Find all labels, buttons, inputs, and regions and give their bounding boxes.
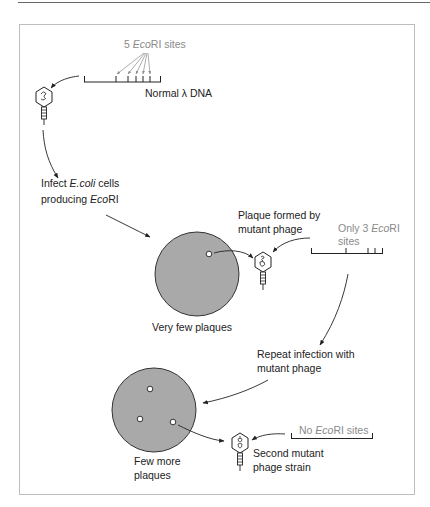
plaque-icon [206, 251, 212, 257]
arrow-icon [203, 380, 268, 403]
plaque-icon [137, 416, 143, 422]
arrow-icon [43, 130, 58, 178]
plaque-formed-label-line1: Plaque formed by [238, 209, 321, 221]
arrow-icon [106, 215, 150, 237]
petri-plate-icon [155, 232, 239, 316]
repeat-infection-label-line2: mutant phage [257, 362, 321, 374]
arrow-icon [273, 238, 310, 252]
infect-label-line1: Infect E.coli cells [41, 177, 119, 189]
petri-plate-icon [112, 368, 196, 452]
plaque-icon [147, 386, 153, 392]
plaque-formed-label-line2: mutant phage [238, 223, 302, 235]
only-three-sites-label-line1: Only 3 EcoRI [338, 222, 400, 234]
no-sites-label: No EcoRI sites [299, 424, 368, 436]
site-pointer-arrows [117, 53, 150, 74]
only-three-sites-label-line2: sites [338, 235, 360, 247]
arrow-icon [320, 274, 348, 345]
arrow-icon [252, 434, 285, 440]
plaque-icon [170, 419, 176, 425]
few-more-plaques-label-line2: plaques [134, 469, 171, 481]
five-sites-label: 5 EcoRI sites [124, 38, 186, 50]
few-more-plaques-label-line1: Few more [134, 455, 181, 467]
second-mutant-label-line1: Second mutant [253, 447, 324, 459]
repeat-infection-label-line1: Repeat infection with [257, 348, 355, 360]
phage-icon [255, 252, 271, 290]
phage-icon [36, 87, 52, 125]
infect-label-line2: producing EcoRI [41, 193, 119, 205]
very-few-plaques-label: Very few plaques [152, 321, 232, 333]
dna-restriction-map-icon [311, 248, 383, 254]
phage-icon [232, 433, 248, 471]
normal-dna-label: Normal λ DNA [145, 87, 212, 99]
arrow-icon [51, 76, 79, 88]
second-mutant-label-line2: phage strain [253, 461, 311, 473]
dna-restriction-map-icon [84, 76, 161, 82]
diagram-canvas: 5 EcoRI sites Normal λ DNA Infect E.coli… [0, 0, 430, 507]
